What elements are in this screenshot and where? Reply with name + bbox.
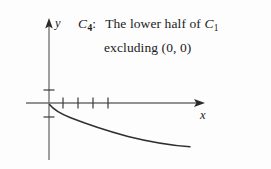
caption-ref-curve-name: C: [204, 16, 213, 31]
y-axis-label: y: [55, 16, 61, 31]
caption-line-2: excluding (0, 0): [78, 38, 268, 57]
caption-block: C4:The lower half of C1 excluding (0, 0): [78, 14, 268, 57]
caption-line-1: C4:The lower half of C1: [78, 14, 268, 38]
x-axis-label: x: [200, 108, 206, 123]
figure-canvas: y x C4:The lower half of C1 excluding (0…: [0, 0, 271, 169]
caption-curve-name: C: [78, 16, 87, 31]
curve-path-c4: [50, 105, 191, 147]
caption-line-1-text: The lower half of: [105, 16, 204, 31]
caption-colon: :: [92, 16, 96, 31]
caption-ref-curve-subscript: 1: [214, 23, 219, 33]
